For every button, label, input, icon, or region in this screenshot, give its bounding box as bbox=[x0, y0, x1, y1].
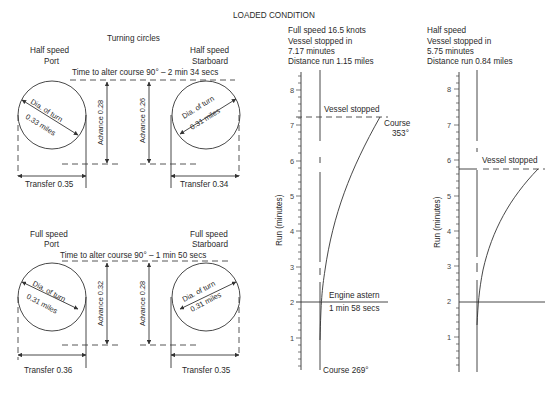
diagram-canvas: LOADED CONDITION Turning circles Half sp… bbox=[0, 0, 559, 395]
full-stop-header-3: 7.17 minutes bbox=[288, 47, 335, 56]
turning-circles-heading: Turning circles bbox=[107, 34, 160, 43]
full-engine-astern-time: 1 min 58 secs bbox=[329, 304, 380, 313]
half-port-label: Half speed bbox=[30, 46, 70, 55]
half-speed-stopping-chart: Half speed Vessel stopped in 5.75 minute… bbox=[427, 26, 545, 372]
full-stop-header-1: Full speed 16.5 knots bbox=[288, 26, 366, 35]
half-tick-5: 5 bbox=[447, 192, 451, 201]
full-stop-header-4: Distance run 1.15 miles bbox=[288, 57, 374, 66]
full-port-label: Full speed bbox=[30, 230, 68, 239]
full-stbd-label-2: Starboard bbox=[192, 240, 228, 249]
full-speed-stopping-chart: Full speed 16.5 knots Vessel stopped in … bbox=[275, 26, 411, 375]
full-tick-6: 6 bbox=[290, 157, 294, 166]
half-stop-header-2: Vessel stopped in bbox=[427, 37, 492, 46]
half-tick-1: 1 bbox=[447, 333, 451, 342]
full-stbd-transfer: Transfer 0.35 bbox=[182, 366, 231, 375]
full-tick-3: 3 bbox=[290, 263, 294, 272]
half-speed-turning-group: Half speed Port Half speed Starboard Tim… bbox=[18, 46, 240, 189]
full-tick-2: 2 bbox=[290, 298, 294, 307]
half-stbd-label-2: Starboard bbox=[192, 57, 228, 66]
half-port-advance: Advance 0.28 bbox=[96, 100, 105, 145]
half-stop-header-4: Distance run 0.84 miles bbox=[427, 57, 513, 66]
full-port-label-2: Port bbox=[44, 240, 60, 249]
half-stbd-transfer: Transfer 0.34 bbox=[180, 180, 229, 189]
full-port-advance: Advance 0.32 bbox=[96, 281, 105, 326]
full-course-end-label: Course bbox=[384, 119, 411, 128]
full-time-to-alter: Time to alter course 90° – 1 min 50 secs bbox=[60, 251, 206, 260]
full-stbd-advance: Advance 0.28 bbox=[138, 281, 147, 326]
half-stbd-advance: Advance 0.26 bbox=[138, 98, 147, 143]
half-tick-3: 3 bbox=[447, 262, 451, 271]
full-stop-header-2: Vessel stopped in bbox=[288, 37, 353, 46]
full-tick-5: 5 bbox=[290, 192, 294, 201]
half-tick-8: 8 bbox=[447, 85, 451, 94]
full-course-start-label: Course 269° bbox=[323, 366, 369, 375]
full-tick-4: 4 bbox=[290, 227, 294, 236]
full-stbd-label: Full speed bbox=[190, 230, 228, 239]
half-stop-header-1: Half speed bbox=[427, 26, 467, 35]
half-vessel-stopped-label: Vessel stopped bbox=[482, 156, 538, 165]
half-stbd-label: Half speed bbox=[190, 46, 230, 55]
half-y-axis-label: Run (minutes) bbox=[433, 196, 442, 248]
half-tick-7: 7 bbox=[447, 121, 451, 130]
page-title: LOADED CONDITION bbox=[233, 11, 315, 20]
half-tick-2: 2 bbox=[447, 297, 451, 306]
full-vessel-stopped-label: Vessel stopped bbox=[324, 105, 380, 114]
full-engine-astern-label: Engine astern bbox=[329, 291, 380, 300]
full-speed-turning-group: Full speed Port Full speed Starboard Tim… bbox=[18, 230, 240, 375]
full-course-end-value: 353° bbox=[392, 129, 409, 138]
full-y-axis-label: Run (minutes) bbox=[275, 194, 284, 246]
full-tick-1: 1 bbox=[290, 334, 294, 343]
half-stop-header-3: 5.75 minutes bbox=[427, 47, 474, 56]
half-tick-6: 6 bbox=[447, 156, 451, 165]
full-port-transfer: Transfer 0.36 bbox=[24, 366, 73, 375]
full-tick-7: 7 bbox=[290, 121, 294, 130]
half-port-label-2: Port bbox=[44, 57, 60, 66]
half-port-transfer: Transfer 0.35 bbox=[25, 180, 74, 189]
half-tick-4: 4 bbox=[447, 227, 451, 236]
full-tick-8: 8 bbox=[290, 86, 294, 95]
half-time-to-alter: Time to alter course 90° – 2 min 34 secs bbox=[72, 68, 218, 77]
